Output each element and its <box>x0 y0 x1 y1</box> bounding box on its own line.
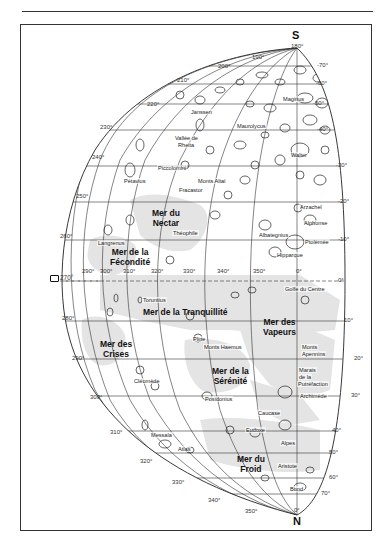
longitude-label: 290° <box>82 268 94 274</box>
longitude-label: 320° <box>151 268 163 274</box>
feature-label: Maginus <box>282 96 305 102</box>
feature-label: Walter <box>290 152 308 158</box>
longitude-label: 330° <box>183 268 195 274</box>
longitude-label: 330° <box>172 479 184 485</box>
longitude-270-marker: 270° <box>50 275 73 282</box>
feature-label: Arzachel <box>299 204 323 210</box>
feature-label: Toruntius <box>142 297 167 303</box>
latitude-label: 0° <box>338 277 344 283</box>
latitude-label: -40° <box>317 126 328 132</box>
feature-label: Langrenus <box>97 240 125 246</box>
mare-name-line2: Vapeurs <box>263 327 296 337</box>
latitude-label: -60° <box>316 80 327 86</box>
mare-label: Mer de la Tranquillité <box>143 307 228 317</box>
feature-label: Fracastor <box>178 187 204 193</box>
feature-label: Caucase <box>257 410 281 416</box>
feature-label: Monts Altaï <box>197 178 227 184</box>
longitude-label: 350° <box>245 508 257 514</box>
longitude-270-label: 270° <box>60 274 73 281</box>
mare-label: Mer de laSérénité <box>212 366 249 386</box>
mare-name-line1: Mer du <box>152 208 180 218</box>
longitude-label: 310° <box>110 429 122 435</box>
mare-name-line2: Sérénité <box>212 376 249 386</box>
longitude-label: 250° <box>76 193 88 199</box>
latitude-label: -50° <box>313 100 324 106</box>
feature-label: Théophile <box>172 230 199 236</box>
mare-name-line1: Mer de la <box>110 247 150 257</box>
longitude-label: 300° <box>90 394 102 400</box>
feature-label: Atlas <box>177 446 191 452</box>
longitude-label: 300° <box>100 268 112 274</box>
feature-label: Eudoxe <box>245 427 266 433</box>
longitude-label: 350° <box>253 268 265 274</box>
longitude-label: 340° <box>217 268 229 274</box>
feature-label: Alpes <box>280 440 296 446</box>
latitude-label: 40° <box>332 427 341 433</box>
mare-name-line1: Mer de la Tranquillité <box>143 307 228 317</box>
feature-label: Messala <box>150 432 173 438</box>
south-pole-label: S <box>292 30 299 41</box>
latitude-label: -20° <box>338 198 349 204</box>
feature-label: Vallée de <box>174 135 199 141</box>
north-pole-degree: 0° <box>294 507 300 513</box>
feature-label: Maurolycus <box>236 123 267 129</box>
feature-label: Apennins <box>301 351 326 357</box>
longitude-label: 220° <box>147 101 159 107</box>
mare-name-line2: Crises <box>100 349 132 359</box>
longitude-label: 0° <box>296 268 302 274</box>
feature-label: Rheita <box>177 142 195 148</box>
latitude-label: 60° <box>329 474 338 480</box>
feature-label: Marais <box>298 367 317 373</box>
latitude-label: 50° <box>329 449 338 455</box>
feature-label: Ptolémée <box>304 239 330 245</box>
feature-label: Golfe du Centre <box>284 286 326 292</box>
longitude-label: 290° <box>72 355 84 361</box>
feature-label: Hipparque <box>276 252 304 258</box>
latitude-label: -30° <box>336 162 347 168</box>
mare-name-line1: Mer des <box>263 317 296 327</box>
latitude-label: -70° <box>317 62 328 68</box>
feature-label: Janssen <box>190 109 213 115</box>
feature-label: Pétavius <box>123 178 146 184</box>
feature-label: Monts Haemus <box>203 344 243 350</box>
feature-label: Posidonius <box>204 396 233 402</box>
feature-label: Monts <box>301 344 318 350</box>
mare-name-line1: Mer du <box>237 454 265 464</box>
feature-label: Piccolomini <box>157 165 187 171</box>
feature-label: Bond <box>289 486 304 492</box>
feature-label: Putréfaction <box>297 381 329 387</box>
latitude-label: 10° <box>344 317 353 323</box>
mare-name-line2: Froid <box>237 464 265 474</box>
mare-label: Mer de laFécondité <box>110 247 150 267</box>
marker-box-icon <box>50 275 59 282</box>
latitude-label: 70° <box>321 490 330 496</box>
longitude-label: 280° <box>62 315 74 321</box>
latitude-label: 20° <box>354 355 363 361</box>
longitude-label: 320° <box>140 458 152 464</box>
feature-label: Cléomède <box>133 378 161 384</box>
longitude-label: 340° <box>208 497 220 503</box>
mare-label: Mer duNectar <box>152 208 180 228</box>
latitude-label: 30° <box>351 392 360 398</box>
mare-name-line2: Fécondité <box>110 257 150 267</box>
longitude-label: 260° <box>60 233 72 239</box>
longitude-label: 190° <box>252 54 264 60</box>
mare-name-line2: Nectar <box>152 218 180 228</box>
longitude-label: 210° <box>177 77 189 83</box>
mare-label: Mer desVapeurs <box>263 317 296 337</box>
mare-name-line1: Mer des <box>100 339 132 349</box>
feature-label: Alphonse <box>303 220 328 226</box>
longitude-label: 240° <box>92 154 104 160</box>
feature-label: Albategnius <box>258 232 289 238</box>
longitude-label: 310° <box>123 268 135 274</box>
north-pole-label: N <box>293 516 301 527</box>
longitude-label: 230° <box>100 124 112 130</box>
feature-label: de la <box>298 374 312 380</box>
mare-label: Mer duFroid <box>237 454 265 474</box>
south-pole-degree: 180° <box>291 43 303 49</box>
latitude-label: -10° <box>338 236 349 242</box>
mare-label: Mer desCrises <box>100 339 132 359</box>
feature-label: Pline <box>192 336 206 342</box>
feature-label: Archimède <box>299 393 328 399</box>
mare-name-line1: Mer de la <box>212 366 249 376</box>
